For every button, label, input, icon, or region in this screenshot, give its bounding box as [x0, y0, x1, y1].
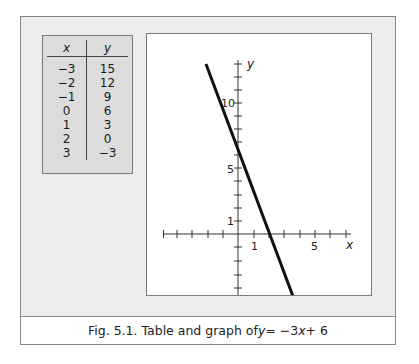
table-row: 0 6 — [47, 104, 128, 118]
data-line — [206, 64, 297, 295]
x-axis-label: x — [345, 238, 354, 252]
y-tick-label-5: 5 — [227, 163, 234, 176]
table-row: −2 12 — [47, 76, 128, 90]
cell-x: −2 — [47, 76, 87, 90]
caption-var-y: y — [258, 323, 265, 338]
graph-panel: y x 10 5 1 1 5 — [146, 33, 372, 296]
caption-eq-mid: = −3 — [265, 323, 298, 338]
y-tick-label-10: 10 — [221, 97, 235, 110]
y-tick-label-1: 1 — [227, 215, 234, 228]
column-header-y: y — [87, 40, 129, 57]
figure-caption: Fig. 5.1. Table and graph of y = −3x + 6 — [21, 316, 395, 344]
cell-x: 3 — [47, 146, 87, 160]
cell-y: 3 — [87, 118, 129, 132]
column-header-x: x — [47, 40, 87, 57]
values-table: x y −3 15 −2 12 −1 9 0 6 — [47, 40, 128, 160]
y-axis-label: y — [246, 57, 255, 71]
cell-x: −3 — [47, 57, 87, 77]
table-row: 1 3 — [47, 118, 128, 132]
cell-x: 1 — [47, 118, 87, 132]
table-row: −1 9 — [47, 90, 128, 104]
cell-y: 0 — [87, 132, 129, 146]
cell-x: −1 — [47, 90, 87, 104]
caption-var-x: x — [298, 323, 305, 338]
figure-frame: x y −3 15 −2 12 −1 9 0 6 — [20, 16, 396, 345]
cell-y: −3 — [87, 146, 129, 160]
cell-y: 9 — [87, 90, 129, 104]
cell-x: 0 — [47, 104, 87, 118]
x-tick-label-1: 1 — [251, 240, 258, 253]
line-graph: y x 10 5 1 1 5 — [147, 34, 371, 295]
table-row: −3 15 — [47, 57, 128, 77]
caption-eq-end: + 6 — [306, 323, 328, 338]
values-table-panel: x y −3 15 −2 12 −1 9 0 6 — [42, 35, 133, 174]
cell-y: 12 — [87, 76, 129, 90]
table-row: 3 −3 — [47, 146, 128, 160]
table-row: 2 0 — [47, 132, 128, 146]
cell-x: 2 — [47, 132, 87, 146]
caption-prefix: Fig. 5.1. Table and graph of — [88, 323, 258, 338]
cell-y: 6 — [87, 104, 129, 118]
x-tick-label-5: 5 — [311, 240, 318, 253]
cell-y: 15 — [87, 57, 129, 77]
